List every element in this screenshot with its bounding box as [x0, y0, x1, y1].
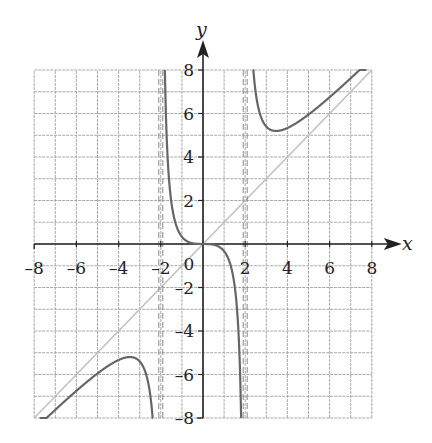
x-tick-label: –2	[151, 258, 170, 278]
y-tick-label: –2	[175, 278, 194, 298]
y-axis-label: y	[195, 18, 207, 40]
x-tick-label: 6	[324, 258, 335, 278]
y-tick-label: 2	[183, 191, 194, 211]
y-tick-label: 6	[183, 104, 194, 124]
x-tick-label: –6	[67, 258, 86, 278]
curve-branch	[253, 70, 366, 131]
y-tick-label: 4	[183, 147, 194, 167]
function-graph: –8–6–4–2246808642–2–4–6–8 x y	[0, 0, 432, 443]
x-tick-label: –4	[109, 258, 128, 278]
y-tick-label: 8	[183, 60, 194, 80]
origin-label: 0	[184, 254, 195, 274]
x-tick-label: –8	[25, 258, 44, 278]
curve-branch	[40, 357, 153, 418]
x-tick-label: 4	[282, 258, 293, 278]
x-tick-label: 8	[366, 258, 377, 278]
y-tick-label: –4	[175, 321, 194, 341]
x-axis-label: x	[402, 232, 413, 254]
y-tick-label: –8	[175, 408, 194, 428]
x-tick-label: 2	[240, 258, 251, 278]
y-tick-label: –6	[175, 365, 194, 385]
